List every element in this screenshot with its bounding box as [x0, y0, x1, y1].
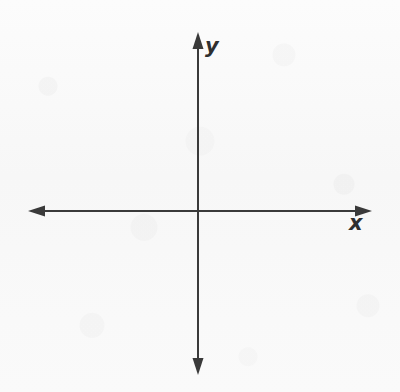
y-axis — [193, 32, 204, 375]
axes-canvas — [0, 0, 400, 392]
y-axis-bottom-arrowhead — [193, 358, 204, 375]
y-axis-top-arrowhead — [193, 32, 204, 49]
x-axis-label: x — [349, 213, 363, 234]
origin-point — [197, 210, 199, 212]
y-axis-label: y — [205, 36, 219, 57]
x-axis — [28, 206, 372, 217]
coordinate-plane-figure: y x — [0, 0, 400, 392]
x-axis-left-arrowhead — [28, 206, 45, 217]
